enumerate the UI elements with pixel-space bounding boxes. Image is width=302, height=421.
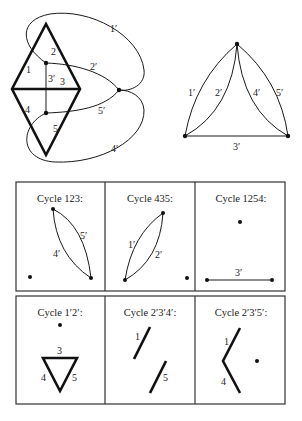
vertex [89, 276, 93, 280]
isolated-vertex [58, 323, 62, 327]
edge-label: 5′ [276, 87, 283, 98]
edge-label: 1′ [128, 239, 135, 250]
panel-title: Cycle 1254: [215, 193, 266, 204]
vertex [235, 42, 239, 46]
edge-4prime [53, 209, 91, 278]
edge-5prime [53, 209, 91, 278]
edge-label: 4 [221, 376, 226, 387]
edge-label: 5′ [98, 105, 105, 116]
dual-vertex [117, 88, 121, 92]
panel-title: Cycle 123: [37, 193, 83, 204]
face-label: 3 [60, 76, 65, 87]
edge-label: 2′ [155, 249, 162, 260]
edge-label: 4 [41, 372, 46, 383]
edge-label: 3′ [235, 267, 242, 278]
primal-dual-overlay: 2 1 3′ 3 4 5 1′ 2′ 5′ 4′ [12, 13, 144, 162]
face-label: 5 [53, 123, 58, 134]
edge-label: 1′ [110, 23, 117, 34]
edge-label: 1 [224, 336, 229, 347]
dual-vertex [44, 111, 48, 115]
vertex [51, 207, 55, 211]
edge-label: 1′ [188, 87, 195, 98]
face-label: 1 [26, 64, 31, 75]
vertex [123, 278, 127, 282]
edge-label: 1 [135, 331, 140, 342]
isolated-vertex [28, 275, 32, 279]
isolated-vertex [255, 359, 259, 363]
dual-edge-5prime [46, 90, 119, 113]
panels-row-2: Cycle 1′2′: 3 4 5 Cycle 2′3′4′: 1 5 Cycl… [16, 296, 285, 404]
panel-title: Cycle 2′3′5′: [215, 307, 268, 318]
face-label: 4 [25, 104, 30, 115]
edge-label: 5′ [80, 230, 87, 241]
isolated-vertex [238, 220, 242, 224]
panel-title: Cycle 2′3′4′: [124, 307, 177, 318]
vertex [270, 278, 274, 282]
edge-label: 2′ [90, 61, 97, 72]
edge-label: 5 [72, 372, 77, 383]
vertex [183, 134, 187, 138]
panel-title: Cycle 1′2′: [37, 307, 82, 318]
edge-label: 4′ [53, 248, 60, 259]
figure-canvas: 2 1 3′ 3 4 5 1′ 2′ 5′ 4′ 1′ 2′ 4′ 5′ 3′ … [0, 0, 302, 421]
edge-label: 3 [57, 345, 62, 356]
edge-label: 3′ [233, 141, 240, 152]
dual-edge-2prime [46, 63, 119, 90]
dual-graph: 1′ 2′ 4′ 5′ 3′ [183, 42, 290, 152]
dual-edge-1prime [26, 13, 144, 90]
panel-title: Cycle 435: [127, 193, 173, 204]
panels-row-1: Cycle 123: 4′ 5′ Cycle 435: 1′ 2′ Cycle … [16, 182, 285, 291]
edge-label: 4′ [111, 143, 118, 154]
edge-label: 2′ [215, 87, 222, 98]
face-label: 3′ [48, 73, 55, 84]
edge-label: 5 [163, 372, 168, 383]
face-label: 2 [51, 46, 56, 57]
vertex [286, 134, 290, 138]
vertex [205, 278, 209, 282]
dual-vertex [44, 61, 48, 65]
vertex [161, 211, 165, 215]
edge-label: 4′ [253, 87, 260, 98]
isolated-vertex [185, 276, 189, 280]
